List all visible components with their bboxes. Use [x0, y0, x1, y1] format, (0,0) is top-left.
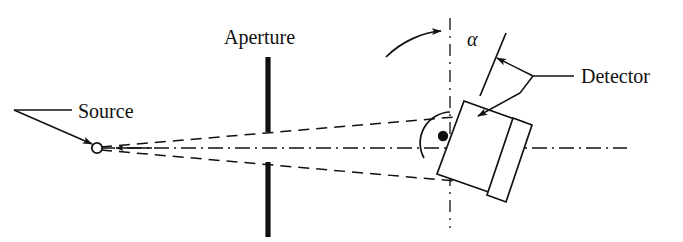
- detector-tilt-reference: [480, 33, 506, 96]
- diverging-beam: [101, 117, 455, 181]
- rotation-arrow: [386, 31, 441, 57]
- source-label: Source: [78, 100, 134, 122]
- detector-tilt-line: [480, 33, 506, 96]
- rotation-arrow-path: [386, 31, 441, 57]
- angle-label: α: [467, 28, 478, 50]
- aperture-label: Aperture: [224, 26, 295, 49]
- pivot-point: [438, 131, 448, 141]
- beam-ray-upper: [101, 117, 455, 147]
- detector-label: Detector: [581, 65, 650, 87]
- source-marker: [92, 143, 102, 153]
- figure-canvas: Source Aperture: [0, 0, 683, 242]
- detector-leader-arrow-upper: [497, 58, 533, 76]
- source-circle-icon: [92, 143, 102, 153]
- beam-ray-lower: [101, 150, 455, 181]
- detector-leader-elbow: [520, 76, 533, 93]
- pivot-dot-icon: [438, 131, 448, 141]
- schematic-drawing: Source Aperture: [0, 0, 683, 242]
